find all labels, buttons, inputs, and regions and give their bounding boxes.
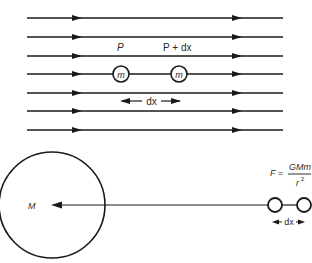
field-line <box>27 15 283 21</box>
mass-label-m: m <box>117 70 125 80</box>
field-line <box>27 108 283 114</box>
big-mass-label: M <box>28 201 36 211</box>
field-line <box>27 53 283 59</box>
uniform-field-lines <box>27 15 283 133</box>
test-mass-2: m <box>171 66 187 82</box>
dx-dimension-bottom: dx <box>272 217 305 227</box>
field-line <box>27 34 283 40</box>
test-mass-1: m <box>113 66 129 82</box>
field-line <box>27 71 283 77</box>
mass-label-m: m <box>175 70 183 80</box>
dx-label: dx <box>146 96 157 107</box>
formula-numerator: GMm <box>289 162 311 172</box>
test-mass-pair <box>268 198 311 212</box>
radial-force-line <box>51 202 268 209</box>
dx-dimension-top: dx <box>120 96 181 107</box>
formula-lhs: F = <box>270 168 283 178</box>
field-diagram: P P + dx m m dx M F = GMm r 2 <box>0 0 312 263</box>
formula-denominator: r <box>296 178 300 188</box>
label-p: P <box>117 42 124 53</box>
force-formula: F = GMm r 2 <box>270 162 311 188</box>
field-line <box>27 127 283 133</box>
dx-label: dx <box>284 217 294 227</box>
label-p-plus-dx: P + dx <box>163 42 191 53</box>
formula-exponent: 2 <box>301 176 305 182</box>
